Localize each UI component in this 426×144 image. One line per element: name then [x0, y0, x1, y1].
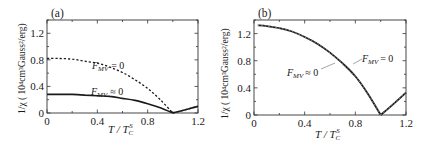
panel-a-label: (a) — [51, 7, 64, 20]
y-tick-label: 1.2 — [30, 27, 44, 39]
panel-b-ticks — [254, 20, 406, 115]
panel-a-series-fmv-nonzero — [47, 94, 198, 113]
panel-b-series-fmv-zero — [258, 25, 406, 115]
y-tick-label: 0 — [39, 107, 45, 119]
x-tick-label: 0.4 — [298, 117, 312, 129]
y-tick-label: 0.4 — [237, 82, 251, 94]
panel-a-y-axis-label: 1/χ ( 10⁴cm³Gauss²/erg) — [17, 23, 28, 114]
x-tick-label: 0.8 — [141, 115, 155, 127]
panel-b-plot-frame — [254, 20, 406, 115]
panel-b-x-axis-label: T / TCS — [315, 127, 341, 142]
panel-b-label: (b) — [258, 7, 272, 20]
x-tick-label: 0.8 — [348, 117, 362, 129]
panel-b-annotation-fmv-zero: FMV= 0 — [361, 53, 393, 66]
y-tick-label: 0.8 — [237, 55, 251, 67]
x-tick-label: 0 — [44, 115, 50, 127]
y-tick-label: 0.8 — [30, 54, 44, 66]
x-tick-label: 0.4 — [90, 115, 104, 127]
panel-a-annotation-fmv-zero: FMV= 0 — [91, 60, 124, 73]
y-tick-label: 0 — [246, 109, 252, 121]
panel-b-annotation-leader-right — [353, 59, 362, 64]
x-tick-label: 1.2 — [399, 117, 413, 129]
panel-b: (b) 00.40.81.2 00.40.81.2 FMV≈ 0 FMV= 0 … — [220, 7, 413, 142]
x-tick-label: 0 — [251, 117, 257, 129]
panel-b-y-tick-labels: 00.40.81.2 — [237, 28, 251, 121]
panel-a: (a) 00.40.81.2 00.40.81.2 FMV= 0 FMV≈ 0 … — [17, 7, 205, 137]
y-tick-label: 0.4 — [30, 80, 44, 92]
x-tick-label: 1.2 — [191, 115, 205, 127]
chart-figure: (a) 00.40.81.2 00.40.81.2 FMV= 0 FMV≈ 0 … — [0, 0, 426, 144]
panel-a-x-axis-label: T / TCS — [108, 122, 134, 137]
panel-b-series-fmv-nonzero — [258, 25, 406, 115]
panel-b-y-axis-label: 1/χ ( 10⁴cm³Gauss²/erg) — [220, 28, 231, 119]
panel-a-annotation-fmv-nonzero: FMV≈ 0 — [90, 86, 123, 99]
panel-b-annotation-fmv-nonzero: FMV≈ 0 — [286, 67, 318, 80]
panel-a-y-tick-labels: 00.40.81.2 — [30, 27, 44, 119]
y-tick-label: 1.2 — [237, 28, 251, 40]
panel-b-annotation-leader-left — [321, 63, 335, 69]
